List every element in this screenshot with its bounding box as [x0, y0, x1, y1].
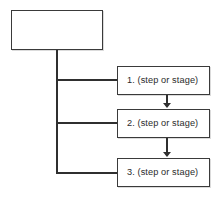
arrow-head-down-icon	[163, 152, 171, 157]
branch-connector-line-1	[56, 79, 118, 81]
step-node-box-1[interactable]: 1. (step or stage)	[117, 66, 210, 95]
arrow-head-down-icon	[163, 103, 171, 108]
branch-connector-line-2	[56, 122, 118, 124]
step-node-label-2: 2. (step or stage)	[118, 119, 198, 128]
flowchart-diagram: 1. (step or stage) 2. (step or stage) 3.…	[0, 0, 219, 200]
trunk-connector-line	[56, 50, 58, 174]
step-node-box-2[interactable]: 2. (step or stage)	[117, 109, 210, 138]
step-node-label-3: 3. (step or stage)	[118, 168, 198, 177]
arrow-shaft	[166, 138, 168, 153]
step-node-label-1: 1. (step or stage)	[118, 76, 198, 85]
root-node-box[interactable]	[11, 10, 103, 50]
step-node-box-3[interactable]: 3. (step or stage)	[117, 158, 210, 187]
branch-connector-line-3	[56, 172, 118, 174]
